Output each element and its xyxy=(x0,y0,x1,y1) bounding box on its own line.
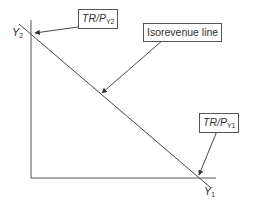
arrow-x-intercept xyxy=(199,131,217,175)
isorevenue-line xyxy=(19,24,211,188)
arrow-line xyxy=(102,40,163,93)
callout-y-intercept: TR/PY2 xyxy=(78,9,118,29)
y-axis-label: Y2 xyxy=(12,27,23,39)
x-axis-label: Y1 xyxy=(204,186,215,198)
arrow-y-intercept xyxy=(35,27,78,33)
callout-x-intercept: TR/PY1 xyxy=(199,113,239,133)
callout-isorevenue-line: Isorevenue line xyxy=(143,23,222,42)
